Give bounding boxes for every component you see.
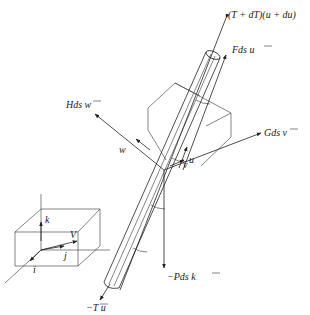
bottom-arrow — [100, 284, 110, 300]
cable-force-diagram: (T + dT)(u + du) Fds u Hds w Gds v −Pds … — [0, 0, 310, 315]
global-frame-box — [5, 194, 110, 283]
hds-arrow — [95, 114, 164, 170]
k-vector-label: k — [45, 214, 50, 225]
hds-label: Hds w — [65, 99, 92, 110]
u-vector-label: u — [189, 154, 194, 165]
w-vector-label: w — [119, 144, 126, 155]
i-vector-label: i — [33, 264, 36, 275]
j-vector-label: j — [62, 250, 67, 261]
fds-label: Fds u — [231, 44, 255, 55]
top-force-label: (T + dT)(u + du) — [228, 9, 296, 21]
gds-label: Gds v — [264, 127, 288, 138]
vector-overbars — [93, 46, 298, 304]
V-vector-label: V — [70, 229, 78, 240]
v-vector-label: v — [183, 159, 188, 170]
pds-label: −Pds k — [167, 271, 196, 282]
bottom-force-label: −T u — [86, 302, 106, 313]
